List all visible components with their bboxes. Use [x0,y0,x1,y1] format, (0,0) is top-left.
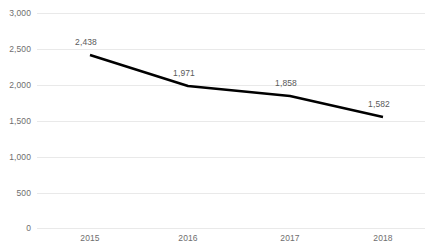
x-axis-tick-label: 2018 [353,233,413,243]
y-axis-tick-label: 1,000 [0,152,31,162]
x-axis-tick-label: 2015 [60,233,120,243]
data-point-label: 1,858 [259,78,313,88]
y-axis-tick-label: 2,500 [0,44,31,54]
y-axis-tick-label: 3,000 [0,8,31,18]
data-point-label: 1,971 [157,68,211,78]
y-axis-tick-label: 0 [0,223,31,233]
y-axis-tick-label: 1,500 [0,116,31,126]
y-axis-tick-label: 2,000 [0,80,31,90]
line-chart: 05001,0001,5002,0002,5003,000 2015201620… [0,0,434,251]
x-axis-tick-label: 2016 [158,233,218,243]
x-axis-tick-label: 2017 [260,233,320,243]
y-axis-tick-label: 500 [0,188,31,198]
data-point-label: 1,582 [352,99,406,109]
data-point-label: 2,438 [59,37,113,47]
